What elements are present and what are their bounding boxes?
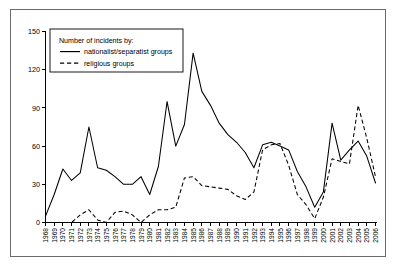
x-axis-tick-label: 1980 xyxy=(146,228,153,243)
x-axis-tick-label: 1987 xyxy=(207,228,214,243)
legend-label-1: nationalist/separatist groups xyxy=(84,48,173,56)
series-line-2 xyxy=(46,105,376,222)
line-chart-svg: 0306090120150 19681969197019711972197319… xyxy=(0,0,394,266)
x-axis-tick-label: 1984 xyxy=(181,228,188,243)
x-axis-tick-label: 2006 xyxy=(372,228,379,243)
y-axis-tick-label: 0 xyxy=(36,218,40,227)
chart-figure: 0306090120150 19681969197019711972197319… xyxy=(0,0,394,266)
x-axis-tick-label: 1993 xyxy=(259,228,266,243)
x-axis-tick-label: 1999 xyxy=(311,228,318,243)
legend-title: Number of incidents by: xyxy=(59,37,134,45)
x-axis-tick-label: 1982 xyxy=(164,228,171,243)
x-axis-tick-label: 1986 xyxy=(198,228,205,243)
y-axis-tick-label: 90 xyxy=(32,104,40,113)
series-lines xyxy=(46,53,376,222)
x-axis-tick-label: 1990 xyxy=(233,228,240,243)
x-axis-tick-label: 1979 xyxy=(138,228,145,243)
x-axis-tick-label: 1973 xyxy=(86,228,93,243)
x-axis-tick-label: 1971 xyxy=(68,228,75,243)
x-axis-tick-label: 2002 xyxy=(337,228,344,243)
x-axis-tick-label: 1969 xyxy=(51,228,58,243)
x-axis-tick-label: 1985 xyxy=(190,228,197,243)
series-line-1 xyxy=(46,53,376,216)
x-axis-tick-label: 1983 xyxy=(172,228,179,243)
y-axis-tick-label: 120 xyxy=(28,65,40,74)
x-axis-tick-label: 1988 xyxy=(216,228,223,243)
x-axis-tick-label: 1968 xyxy=(42,228,49,243)
x-axis: 1968196919701971197219731974197519761977… xyxy=(42,223,379,243)
x-axis-tick-label: 1996 xyxy=(285,228,292,243)
x-axis-tick-label: 1991 xyxy=(242,228,249,243)
x-axis-tick-label: 1972 xyxy=(77,228,84,243)
x-axis-tick-label: 2000 xyxy=(320,228,327,243)
plot-area: 0306090120150 19681969197019711972197319… xyxy=(0,0,394,266)
y-axis-tick-label: 60 xyxy=(32,142,40,151)
x-axis-tick-label: 1981 xyxy=(155,228,162,243)
x-axis-tick-label: 1995 xyxy=(277,228,284,243)
x-axis-tick-label: 1977 xyxy=(120,228,127,243)
x-axis-tick-label: 1970 xyxy=(59,228,66,243)
x-axis-tick-label: 2001 xyxy=(329,228,336,243)
y-axis-tick-label: 150 xyxy=(28,27,40,36)
chart-legend: Number of incidents by:nationalist/separ… xyxy=(50,29,183,72)
x-axis-tick-label: 1997 xyxy=(294,228,301,243)
x-axis-tick-label: 1976 xyxy=(112,228,119,243)
legend-label-2: religious groups xyxy=(84,60,135,68)
y-axis: 0306090120150 xyxy=(28,27,46,227)
x-axis-tick-label: 1994 xyxy=(268,228,275,243)
x-axis-tick-label: 1998 xyxy=(303,228,310,243)
x-axis-tick-label: 1975 xyxy=(103,228,110,243)
x-axis-tick-label: 1992 xyxy=(251,228,258,243)
x-axis-tick-label: 1989 xyxy=(224,228,231,243)
x-axis-tick-label: 2004 xyxy=(355,228,362,243)
x-axis-tick-label: 1978 xyxy=(129,228,136,243)
x-axis-tick-label: 1974 xyxy=(94,228,101,243)
y-axis-tick-label: 30 xyxy=(32,180,40,189)
x-axis-tick-label: 2005 xyxy=(363,228,370,243)
x-axis-tick-label: 2003 xyxy=(346,228,353,243)
